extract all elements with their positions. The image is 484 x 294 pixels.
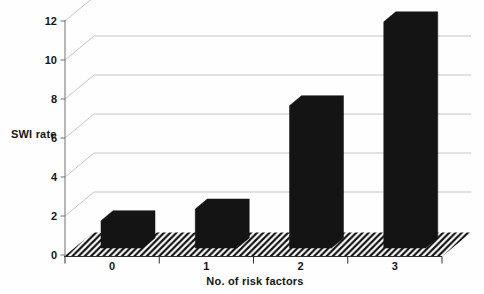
x-tick-label-0: 0 [109, 260, 115, 272]
x-tick-label-1: 1 [203, 260, 209, 272]
y-tick-label-8: 8 [51, 93, 57, 105]
y-tick-label-10: 10 [45, 54, 57, 66]
y-tick-label-2: 2 [51, 210, 57, 222]
y-tick-label-4: 4 [51, 171, 58, 183]
plot-area: 0246810120123 [0, 0, 484, 294]
bar-risk-factors-3 [384, 12, 438, 248]
y-axis-title: SWI rate [11, 128, 61, 140]
bar-risk-factors-2 [290, 96, 344, 248]
bar-risk-factors-0 [101, 211, 155, 248]
x-tick-label-2: 2 [298, 260, 304, 272]
x-axis-title: No. of risk factors [115, 275, 395, 287]
y-tick-label-0: 0 [51, 249, 57, 261]
bar-risk-factors-1 [195, 199, 249, 248]
swi-rate-3d-bar-chart: 0246810120123 SWI rate No. of risk facto… [0, 0, 484, 294]
x-tick-label-3: 3 [392, 260, 398, 272]
y-tick-label-12: 12 [45, 15, 57, 27]
